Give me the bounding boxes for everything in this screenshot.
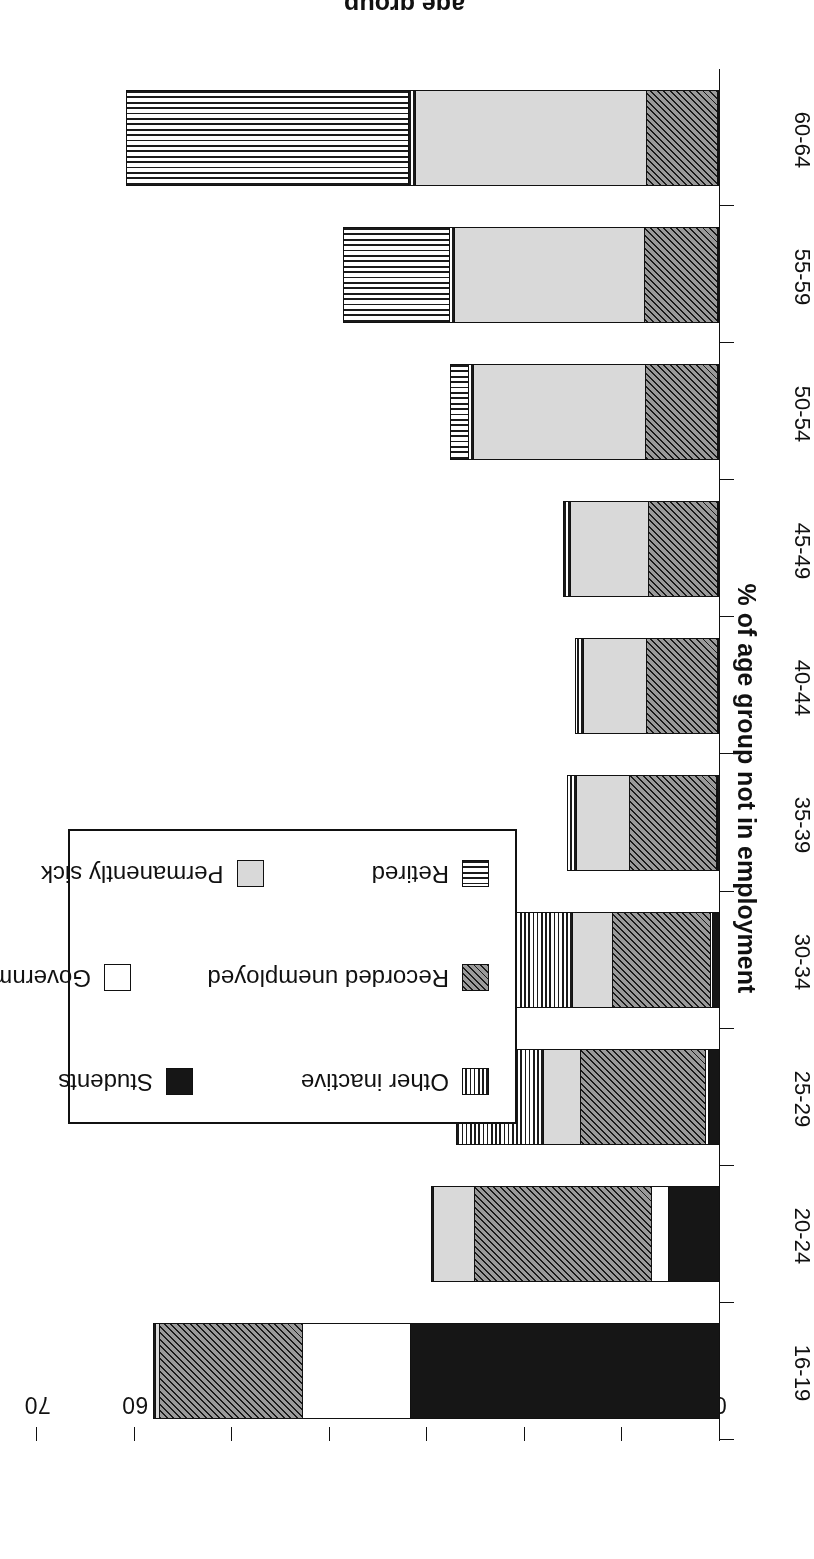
- value-tick: [622, 1427, 623, 1441]
- legend-label: Other inactive: [301, 1068, 449, 1096]
- bar-segment-other: [431, 1186, 435, 1282]
- legend-swatch-icon: [104, 965, 131, 992]
- value-tick: [134, 1427, 135, 1441]
- bar-row: 45-49: [135, 501, 720, 597]
- stacked-bar: [575, 638, 720, 734]
- legend-row: Other inactiveStudents: [90, 1068, 489, 1096]
- legend-swatch-icon: [462, 965, 489, 992]
- bar-segment-retired: [450, 364, 470, 460]
- bar-segment-students: [712, 912, 720, 1008]
- bar-segment-unemp: [644, 227, 718, 323]
- value-axis-title: % of age group not in employment: [733, 549, 762, 1029]
- bar-segment-sick: [454, 227, 645, 323]
- legend-swatch-icon: [462, 861, 489, 888]
- category-label: 35-39: [789, 765, 814, 885]
- bar-segment-unemp: [580, 1049, 707, 1145]
- value-tick: [427, 1427, 428, 1441]
- legend-row: Recorded unemployedGovernment schemes: [90, 964, 489, 992]
- value-tick-label: 70: [0, 1391, 84, 1418]
- stacked-bar: [563, 501, 720, 597]
- value-tick: [524, 1427, 525, 1441]
- bar-row: 60-64: [135, 90, 720, 186]
- category-tick: [720, 1165, 734, 1166]
- stacked-bar: [567, 775, 720, 871]
- category-tick: [720, 205, 734, 206]
- bar-row: 16-19: [135, 1323, 720, 1419]
- legend-item[interactable]: Permanently sick: [41, 860, 264, 888]
- category-tick: [720, 479, 734, 480]
- bar-segment-sick: [433, 1186, 475, 1282]
- legend-item[interactable]: Other inactive: [301, 1068, 489, 1096]
- category-label: 50-54: [789, 354, 814, 474]
- legend-label: Recorded unemployed: [208, 964, 450, 992]
- bar-row: 55-59: [135, 227, 720, 323]
- legend-item[interactable]: Retired: [372, 860, 489, 888]
- legend-swatch-icon: [166, 1069, 193, 1096]
- legend-label: Government schemes: [0, 964, 91, 992]
- value-tick: [329, 1427, 330, 1441]
- bar-segment-students: [668, 1186, 720, 1282]
- bar-segment-retired: [126, 90, 409, 186]
- category-label: 60-64: [789, 80, 814, 200]
- bar-segment-other: [408, 90, 416, 186]
- category-label: 25-29: [789, 1039, 814, 1159]
- chart-legend: Other inactiveStudentsRecorded unemploye…: [68, 829, 517, 1124]
- bar-segment-sick: [415, 90, 647, 186]
- legend-label: Permanently sick: [41, 860, 224, 888]
- bar-segment-sick: [576, 775, 631, 871]
- bar-segment-unemp: [646, 638, 718, 734]
- bar-row: 40-44: [135, 638, 720, 734]
- bar-segment-retired: [343, 227, 450, 323]
- plot-area: 010203040506070 16-1920-2425-2930-3435-3…: [135, 69, 720, 1440]
- legend-body: Other inactiveStudentsRecorded unemploye…: [90, 860, 489, 1096]
- bar-segment-unemp: [645, 364, 718, 460]
- bar-segment-sick: [473, 364, 646, 460]
- legend-swatch-icon: [237, 861, 264, 888]
- bar-segment-other: [153, 1323, 156, 1419]
- stacked-bar: [431, 1186, 720, 1282]
- legend-item[interactable]: Recorded unemployed: [239, 964, 489, 992]
- bar-segment-students: [708, 1049, 720, 1145]
- stacked-bar: [153, 1323, 720, 1419]
- bar-segment-other: [567, 775, 577, 871]
- category-label: 30-34: [789, 902, 814, 1022]
- bar-segment-sick: [583, 638, 647, 734]
- legend-item[interactable]: Government schemes: [0, 964, 131, 992]
- bar-segment-other: [563, 501, 571, 597]
- bar-segment-students: [410, 1323, 720, 1419]
- category-label: 20-24: [789, 1176, 814, 1296]
- bar-segment-sick: [570, 501, 649, 597]
- category-tick: [720, 342, 734, 343]
- bar-segment-unemp: [159, 1323, 302, 1419]
- bar-segment-gov: [302, 1323, 411, 1419]
- stacked-bar: [450, 364, 720, 460]
- category-label: 16-19: [789, 1313, 814, 1433]
- bar-segment-unemp: [648, 501, 718, 597]
- legend-item[interactable]: Students: [58, 1068, 193, 1096]
- category-label: 55-59: [789, 217, 814, 337]
- value-tick: [37, 1427, 38, 1441]
- bar-segment-sick: [543, 1049, 581, 1145]
- bar-segment-unemp: [474, 1186, 651, 1282]
- category-tick: [720, 1439, 734, 1440]
- category-axis-title: age group: [0, 0, 809, 19]
- stacked-bar: [343, 227, 720, 323]
- bar-segment-unemp: [629, 775, 717, 871]
- legend-label: Retired: [372, 860, 449, 888]
- value-tick: [232, 1427, 233, 1441]
- bar-segment-gov: [651, 1186, 670, 1282]
- bar-segment-unemp: [646, 90, 718, 186]
- legend-swatch-icon: [462, 1069, 489, 1096]
- category-label: 45-49: [789, 491, 814, 611]
- legend-label: Students: [58, 1068, 153, 1096]
- bar-row: 20-24: [135, 1186, 720, 1282]
- bar-segment-other: [575, 638, 584, 734]
- category-tick: [720, 1302, 734, 1303]
- category-label: 40-44: [789, 628, 814, 748]
- bar-segment-unemp: [612, 912, 711, 1008]
- stacked-bar: [126, 90, 720, 186]
- legend-row: RetiredPermanently sick: [90, 860, 489, 888]
- bar-row: 50-54: [135, 364, 720, 460]
- bar-segment-sick: [572, 912, 613, 1008]
